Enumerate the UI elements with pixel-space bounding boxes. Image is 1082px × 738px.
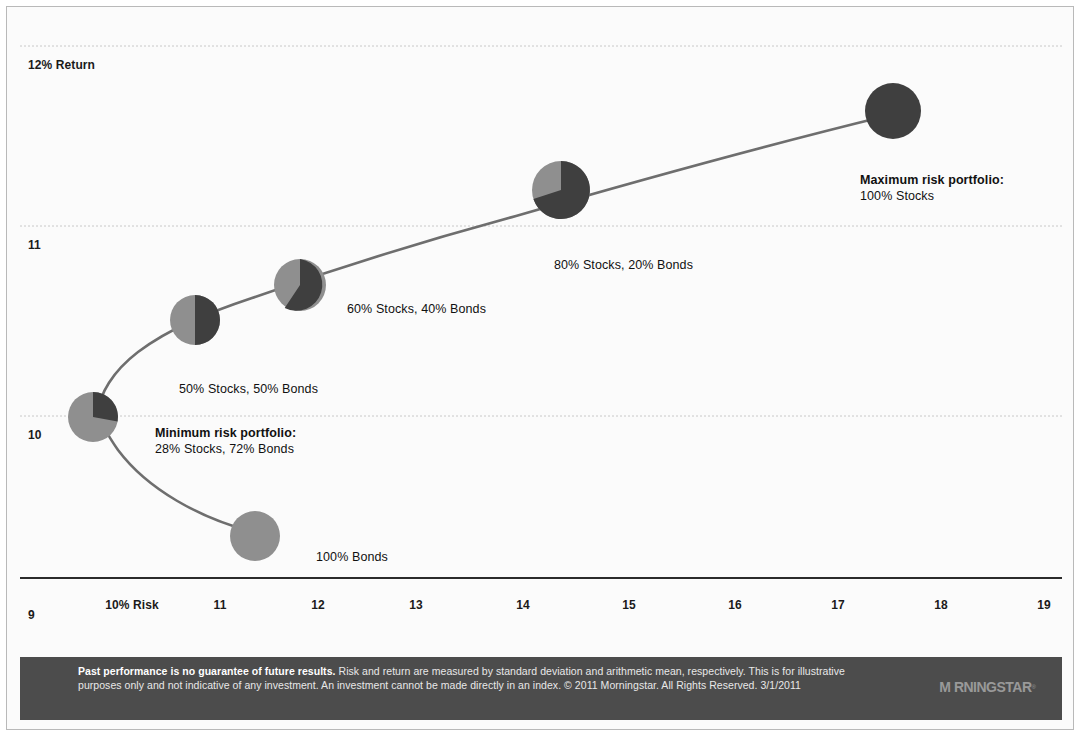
annotation-50-50-text: 50% Stocks, 50% Bonds bbox=[179, 382, 318, 396]
annotation-min-risk-detail: 28% Stocks, 72% Bonds bbox=[155, 442, 294, 456]
trademark-symbol: ® bbox=[1032, 684, 1036, 690]
point-80-20 bbox=[532, 161, 590, 219]
annotation-min-risk: Minimum risk portfolio: 28% Stocks, 72% … bbox=[155, 425, 296, 457]
point-50-50 bbox=[170, 295, 220, 345]
point-100-bonds bbox=[230, 511, 280, 561]
efficient-frontier-svg bbox=[20, 20, 1062, 640]
y-tick-11: 11 bbox=[28, 238, 41, 252]
annotation-100-bonds-text: 100% Bonds bbox=[316, 550, 388, 564]
annotation-60-40-text: 60% Stocks, 40% Bonds bbox=[347, 302, 486, 316]
x-tick-17: 17 bbox=[831, 598, 845, 612]
annotation-80-20: 80% Stocks, 20% Bonds bbox=[554, 257, 693, 273]
x-tick-13: 13 bbox=[409, 598, 423, 612]
x-tick-19: 19 bbox=[1037, 598, 1051, 612]
annotation-100-bonds: 100% Bonds bbox=[316, 549, 388, 565]
disclaimer-lead: Past performance is no guarantee of futu… bbox=[78, 665, 336, 677]
morningstar-logo: M RNINGSTAR ® bbox=[939, 679, 1036, 695]
x-tick-12: 12 bbox=[311, 598, 325, 612]
x-tick-11: 11 bbox=[214, 598, 227, 612]
annotation-min-risk-title: Minimum risk portfolio: bbox=[155, 426, 296, 440]
point-60-40 bbox=[274, 259, 326, 311]
annotation-max-risk: Maximum risk portfolio: 100% Stocks bbox=[860, 172, 1004, 204]
annotation-80-20-text: 80% Stocks, 20% Bonds bbox=[554, 258, 693, 272]
x-tick-16: 16 bbox=[728, 598, 742, 612]
y-tick-12: 12% Return bbox=[28, 58, 95, 72]
plot-area: 12% Return 11 10 9 10% Risk 11 12 13 14 … bbox=[20, 20, 1062, 640]
x-tick-10: 10% Risk bbox=[105, 598, 159, 612]
y-tick-10: 10 bbox=[28, 428, 42, 442]
annotation-60-40: 60% Stocks, 40% Bonds bbox=[347, 301, 486, 317]
x-tick-15: 15 bbox=[622, 598, 636, 612]
x-tick-14: 14 bbox=[516, 598, 530, 612]
annotation-50-50: 50% Stocks, 50% Bonds bbox=[179, 381, 318, 397]
point-max-risk bbox=[865, 83, 921, 139]
annotation-max-risk-detail: 100% Stocks bbox=[860, 189, 934, 203]
chart-page: 12% Return 11 10 9 10% Risk 11 12 13 14 … bbox=[0, 0, 1082, 738]
morningstar-wordmark: M RNINGSTAR bbox=[939, 679, 1031, 695]
y-tick-9: 9 bbox=[28, 608, 35, 622]
x-tick-18: 18 bbox=[934, 598, 948, 612]
disclaimer-text: Past performance is no guarantee of futu… bbox=[78, 665, 858, 692]
point-min-risk bbox=[68, 392, 118, 442]
footer-band: Past performance is no guarantee of futu… bbox=[20, 657, 1062, 720]
annotation-max-risk-title: Maximum risk portfolio: bbox=[860, 173, 1004, 187]
